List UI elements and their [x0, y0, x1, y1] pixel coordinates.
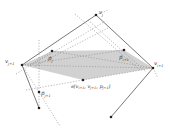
point-end-right [110, 116, 113, 119]
point-pj1 [38, 91, 41, 94]
point-vj1 [21, 64, 24, 67]
label-vj: vj [99, 9, 104, 17]
edge-vi1-endright [111, 68, 153, 117]
point-end-left [38, 107, 41, 110]
label-vi1: vi+1 [154, 60, 163, 68]
point-pj [51, 50, 54, 53]
label-vj1: vj+1 [5, 58, 14, 66]
point-partial [82, 79, 85, 82]
edge-vj1-endleft [22, 65, 39, 108]
shaded-region [22, 50, 153, 80]
label-pj1: p̄j+1 [41, 90, 51, 98]
geometry-diagram: vj vj+1 vi+1 p̄j p̄i+1 p̄j+1 ∂(vi+1, vj+… [0, 0, 170, 133]
point-vj [95, 14, 98, 17]
point-vi1 [152, 67, 155, 70]
label-partial: ∂(vi+1, vj+1, pj+1) [71, 83, 110, 90]
point-pi1 [123, 49, 126, 52]
dotted-right-ext [153, 68, 158, 78]
